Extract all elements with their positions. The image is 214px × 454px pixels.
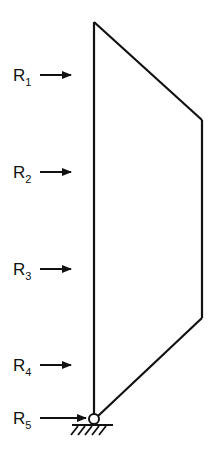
load-r3: R3	[13, 260, 71, 282]
pin-circle	[89, 414, 99, 424]
frame-diagram: R1 R2 R3 R4 R5	[0, 0, 214, 454]
load-r2: R2	[13, 163, 71, 185]
svg-text:R5: R5	[13, 409, 31, 431]
svg-text:R1: R1	[13, 66, 31, 88]
bottom-diagonal-member	[98, 318, 202, 416]
load-r4: R4	[13, 356, 71, 378]
ground-hatch	[71, 426, 106, 435]
load-r5: R5	[13, 409, 86, 431]
svg-text:R4: R4	[13, 356, 31, 378]
svg-text:R3: R3	[13, 260, 31, 282]
frame-outline	[94, 22, 202, 416]
load-r1: R1	[13, 66, 71, 88]
svg-text:R2: R2	[13, 163, 31, 185]
top-diagonal-member	[94, 22, 202, 120]
